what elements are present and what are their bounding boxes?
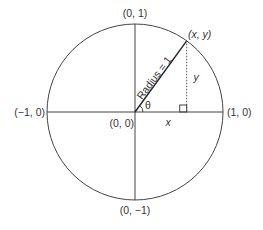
label-y-leg: y <box>192 71 199 83</box>
label-left: (−1, 0) <box>14 106 45 118</box>
label-x-leg: x <box>164 116 171 128</box>
label-right: (1, 0) <box>227 106 252 118</box>
label-bottom: (0, −1) <box>120 204 151 216</box>
label-origin: (0, 0) <box>109 117 134 129</box>
angle-arc <box>140 106 143 112</box>
label-angle: θ <box>145 99 151 111</box>
label-point: (x, y) <box>188 28 211 40</box>
unit-circle-diagram: (0, 1) (0, −1) (−1, 0) (1, 0) (0, 0) (x,… <box>0 0 263 230</box>
right-angle-marker <box>180 105 187 112</box>
label-radius: Radius = 1 <box>134 54 174 102</box>
label-top: (0, 1) <box>123 7 148 19</box>
